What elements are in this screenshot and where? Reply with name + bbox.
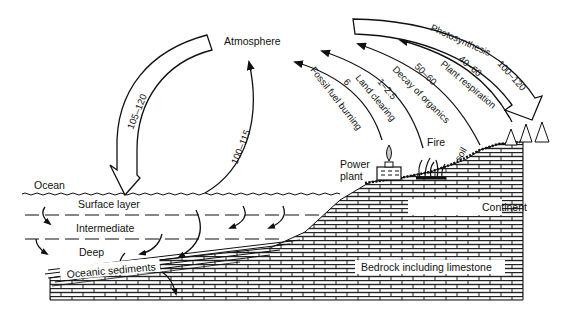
label-power-plant-1: Power <box>340 158 370 170</box>
flux-ocean-to-atm <box>205 62 253 193</box>
label-intermediate: Intermediate <box>76 222 135 234</box>
label-fossil-fuel: Fossil fuel burning <box>308 64 364 132</box>
label-power-plant-2: plant <box>340 170 363 182</box>
label-bedrock: Bedrock including limestone <box>361 261 492 273</box>
power-plant-icon <box>377 145 401 180</box>
label-fire: Fire <box>427 136 445 148</box>
carbon-cycle-diagram: Atmosphere Ocean Surface layer Intermedi… <box>0 0 570 321</box>
value-ocean-to-atm: 100–115 <box>229 128 253 166</box>
label-ocean: Ocean <box>34 179 65 191</box>
label-continent: Continent <box>482 201 527 213</box>
value-fossil-fuel: 6 <box>341 76 353 87</box>
label-atmosphere: Atmosphere <box>224 35 281 47</box>
trees-icon <box>505 122 549 145</box>
flux-atm-to-ocean <box>110 35 212 195</box>
label-surface-layer: Surface layer <box>78 198 140 210</box>
ocean-surface-line <box>22 193 340 195</box>
label-deep: Deep <box>79 246 104 258</box>
